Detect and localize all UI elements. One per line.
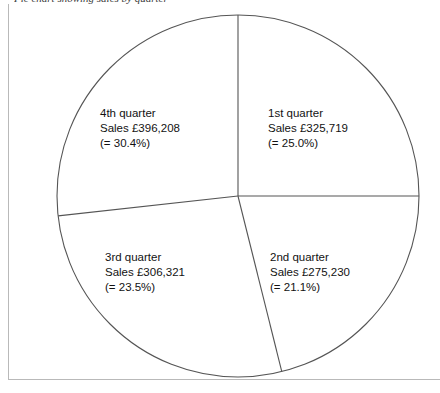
- slice-label-q3-name: 3rd quarter: [105, 250, 185, 265]
- pie-chart-graphic: [0, 0, 440, 393]
- slice-label-q4: 4th quarter Sales £396,208 (= 30.4%): [100, 106, 180, 151]
- slice-label-q3-percent: (= 23.5%): [105, 280, 185, 295]
- slice-label-q2-value: Sales £275,230: [270, 265, 350, 280]
- slice-label-q1-name: 1st quarter: [268, 106, 348, 121]
- slice-label-q4-name: 4th quarter: [100, 106, 180, 121]
- slice-label-q3-value: Sales £306,321: [105, 265, 185, 280]
- slice-label-q1: 1st quarter Sales £325,719 (= 25.0%): [268, 106, 348, 151]
- slice-label-q1-value: Sales £325,719: [268, 121, 348, 136]
- slice-label-q4-value: Sales £396,208: [100, 121, 180, 136]
- slice-label-q4-percent: (= 30.4%): [100, 136, 180, 151]
- slice-label-q2-name: 2nd quarter: [270, 250, 350, 265]
- slice-label-q2-percent: (= 21.1%): [270, 280, 350, 295]
- pie-chart-figure: Pie chart showing sales by quarter 1st q…: [0, 0, 440, 393]
- slice-label-q3: 3rd quarter Sales £306,321 (= 23.5%): [105, 250, 185, 295]
- slice-label-q1-percent: (= 25.0%): [268, 136, 348, 151]
- slice-label-q2: 2nd quarter Sales £275,230 (= 21.1%): [270, 250, 350, 295]
